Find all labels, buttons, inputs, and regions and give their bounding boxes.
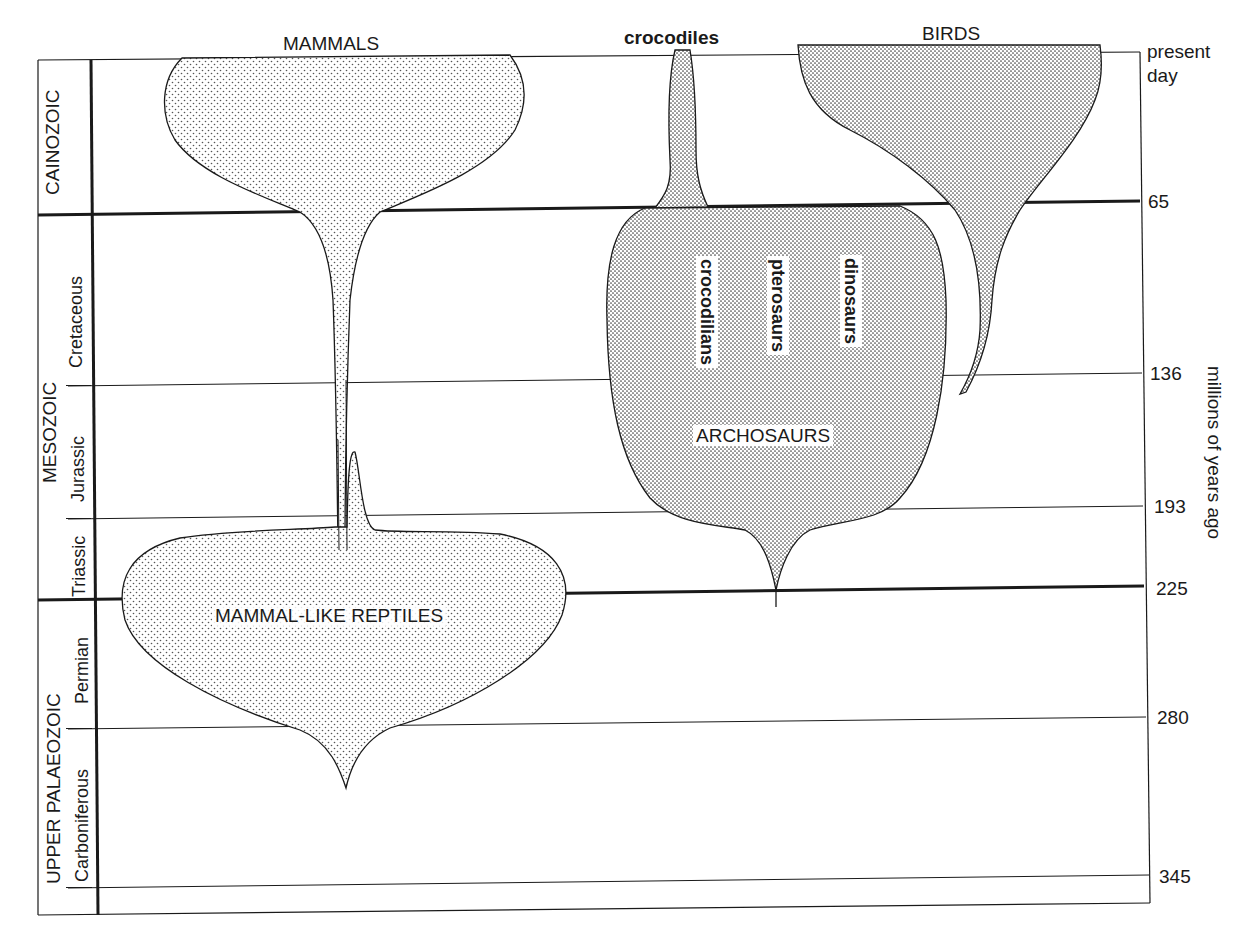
present-label-line1: present (1147, 42, 1210, 61)
tick-280: 280 (1157, 708, 1189, 727)
tick-136: 136 (1150, 364, 1182, 383)
divider-permian-carboniferous (66, 728, 92, 729)
tick-193: 193 (1154, 497, 1186, 516)
label-crocodilians: crocodilians (696, 256, 718, 368)
line-136 (68, 373, 1142, 386)
line-193 (68, 506, 1143, 519)
mammals-shape (165, 55, 525, 550)
era-upper-palaeozoic: UPPER PALAEOZOIC (44, 693, 63, 884)
axis-label: millions of years ago (1205, 366, 1224, 539)
column-title-birds: BIRDS (922, 24, 980, 43)
divider-carboniferous-bottom (66, 887, 92, 888)
period-jurassic: Jurassic (69, 436, 87, 502)
period-cretaceous: Cretaceous (67, 276, 85, 368)
divider-jurassic-triassic (66, 518, 91, 519)
period-triassic: Triassic (70, 536, 88, 597)
era-mesozoic: MESOZOIC (40, 382, 59, 483)
tick-65: 65 (1148, 192, 1169, 211)
era-cainozoic: CAINOZOIC (43, 89, 62, 195)
crocodiles-shape (655, 50, 708, 208)
divider-cretaceous-jurassic (66, 385, 91, 386)
present-label-line2: day (1147, 66, 1178, 85)
period-carboniferous: Carboniferous (73, 769, 91, 882)
period-permian: Permian (73, 637, 91, 704)
column-title-mammals: MAMMALS (283, 34, 379, 53)
label-archosaurs: ARCHOSAURS (693, 425, 833, 446)
column-title-crocodiles: crocodiles (624, 28, 719, 47)
label-pterosaurs: pterosaurs (767, 256, 789, 355)
tick-345: 345 (1159, 867, 1191, 886)
tick-225: 225 (1156, 579, 1188, 598)
label-mammal-like-reptiles: MAMMAL-LIKE REPTILES (212, 605, 446, 626)
line-345 (68, 875, 1149, 888)
label-dinosaurs: dinosaurs (840, 255, 862, 347)
line-280 (68, 717, 1146, 729)
phylogeny-diagram (0, 0, 1243, 926)
